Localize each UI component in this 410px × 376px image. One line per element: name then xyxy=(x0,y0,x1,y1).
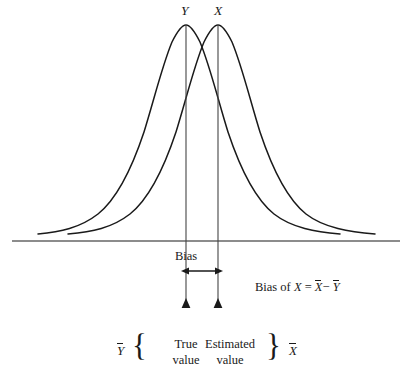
right-mean-symbol-label: X xyxy=(289,344,297,357)
equation-equals-sign: = xyxy=(305,280,312,294)
bias-diagram-canvas xyxy=(0,0,410,376)
estimated-value-arrowhead xyxy=(214,298,223,308)
curve-label-x: X xyxy=(214,4,222,18)
true-value-line-2: value xyxy=(172,353,199,369)
equation-y-bar: Y xyxy=(333,281,340,294)
estimated-value-line-2: value xyxy=(205,353,255,369)
left-mean-symbol-label: Y xyxy=(117,344,124,357)
bias-equation: Bias of X = X− Y xyxy=(255,281,340,294)
estimated-value-line-1: Estimated xyxy=(205,337,255,353)
left-brace-icon: { xyxy=(132,330,147,361)
equation-subject-var: X xyxy=(294,280,302,294)
true-value-line-1: True xyxy=(172,337,199,353)
bias-arrow-head-left xyxy=(181,267,189,274)
true-value-arrowhead xyxy=(182,298,191,308)
bias-diagram-figure: Y X Bias Bias of X = X− Y Y { True value… xyxy=(0,0,410,376)
equation-x-bar: X xyxy=(315,281,323,294)
distribution-curve-x xyxy=(68,25,375,234)
right-brace-icon: } xyxy=(266,330,281,361)
equation-prefix-text: Bias of xyxy=(255,280,291,294)
curve-label-y: Y xyxy=(181,4,189,18)
x-bar-symbol: X xyxy=(289,344,297,357)
true-value-label: True value xyxy=(172,337,199,368)
bias-arrow-head-right xyxy=(215,267,223,274)
equation-minus-sign: − xyxy=(322,280,329,294)
bias-caption-label: Bias xyxy=(175,250,197,263)
estimated-value-label: Estimated value xyxy=(205,337,255,368)
y-bar-symbol: Y xyxy=(117,344,124,357)
